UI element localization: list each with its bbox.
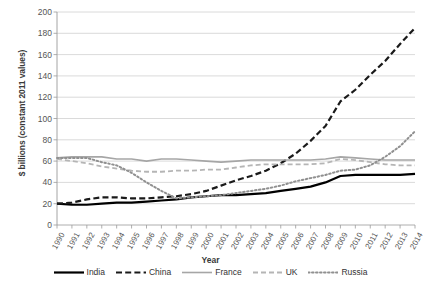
legend-item-france[interactable]: France <box>182 268 241 277</box>
legend-label: UK <box>286 268 298 277</box>
dotted-gray-line-icon <box>308 269 338 276</box>
chart-legend: IndiaChinaFranceUKRussia <box>0 268 421 277</box>
series-line-india <box>57 174 415 205</box>
series-line-russia <box>57 131 415 198</box>
legend-item-china[interactable]: China <box>116 268 171 277</box>
legend-label: Russia <box>341 268 367 277</box>
x-axis-title: Year <box>0 255 421 265</box>
legend-label: China <box>149 268 171 277</box>
dashed-black-line-icon <box>116 269 146 276</box>
legend-item-india[interactable]: India <box>54 268 105 277</box>
solid-gray-line-icon <box>182 269 212 276</box>
legend-item-russia[interactable]: Russia <box>308 268 367 277</box>
legend-label: India <box>87 268 105 277</box>
x-tick-marks <box>57 225 415 229</box>
solid-black-line-icon <box>54 269 84 276</box>
legend-label: France <box>215 268 241 277</box>
y-tick-marks <box>54 12 58 225</box>
legend-item-uk[interactable]: UK <box>253 268 298 277</box>
dashed-gray-line-icon <box>253 269 283 276</box>
